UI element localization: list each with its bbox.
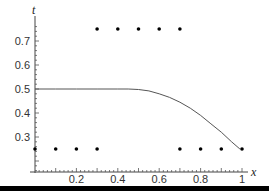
x-tick-label: 1 [239, 173, 245, 185]
x-tick-label: 0.6 [152, 173, 167, 185]
x-tick-label: 0.8 [193, 173, 208, 185]
data-point [199, 147, 203, 151]
x-tick-label: 0.2 [69, 173, 84, 185]
y-tick-label: 0.7 [15, 35, 30, 47]
data-point [240, 147, 244, 151]
x-axis-title: x [250, 165, 257, 179]
y-axis-title: t [32, 3, 36, 17]
plot-area [33, 27, 244, 151]
x-axis: 0.20.40.60.81 [30, 168, 248, 185]
data-point [33, 147, 37, 151]
chart: 0.30.40.50.60.7 0.20.40.60.81 t x [0, 0, 269, 191]
data-point [178, 27, 182, 31]
data-point [220, 147, 224, 151]
bottom-border [0, 186, 269, 191]
data-point [157, 27, 161, 31]
data-point [75, 147, 79, 151]
curve-line [35, 89, 240, 149]
data-point [95, 147, 99, 151]
y-tick-label: 0.3 [15, 131, 30, 143]
data-point [54, 147, 58, 151]
data-point [137, 27, 141, 31]
y-tick-label: 0.4 [15, 107, 30, 119]
x-tick-label: 0.4 [110, 173, 125, 185]
y-tick-label: 0.5 [15, 83, 30, 95]
data-point [116, 27, 120, 31]
data-point [95, 27, 99, 31]
y-tick-label: 0.6 [15, 59, 30, 71]
data-point [178, 147, 182, 151]
